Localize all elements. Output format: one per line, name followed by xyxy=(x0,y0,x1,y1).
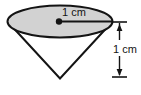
height-dimension-label: 1 cm xyxy=(113,43,137,55)
cone-diagram: 1 cm 1 cm xyxy=(0,0,141,95)
radius-dimension-label: 1 cm xyxy=(62,6,86,18)
center-dot xyxy=(56,18,62,24)
height-arrow-down-icon xyxy=(117,69,123,76)
height-arrow-up-icon xyxy=(117,24,123,31)
cone-diagram-canvas: 1 cm 1 cm xyxy=(0,0,141,95)
